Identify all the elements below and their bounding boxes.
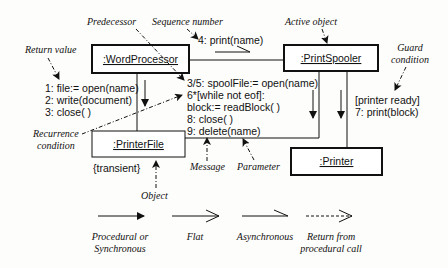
annotation-recurrence-2: condition xyxy=(37,140,75,151)
message-text: 2: write(document) xyxy=(45,94,132,106)
annotation-recurrence: Recurrence xyxy=(32,128,79,139)
legend: Procedural or Synchronous Flat Asynchron… xyxy=(91,210,362,254)
message-text: 3: close( ) xyxy=(45,106,91,118)
message-text: 9: delete(name) xyxy=(187,125,261,137)
message-print-name: 4: print(name) xyxy=(198,34,263,46)
object-label: :Printer xyxy=(320,155,354,167)
message-text: block:= readBlock( ) xyxy=(187,101,280,113)
object-label: :PrintSpooler xyxy=(301,52,362,64)
annotation-guard-condition: Guard xyxy=(397,42,424,53)
legend-label: Flat xyxy=(186,231,204,242)
object-print-spooler[interactable]: :PrintSpooler xyxy=(284,45,378,71)
object-printer-file[interactable]: :PrinterFile xyxy=(92,131,185,157)
message-text: 3/5: spoolFile:= open(name) xyxy=(187,77,318,89)
messages-spooler-file: 3/5: spoolFile:= open(name) 6*[while not… xyxy=(187,77,318,137)
message-text: 7: print(block) xyxy=(355,106,419,118)
legend-label: procedural call xyxy=(299,243,362,254)
annotation-return-value: Return value xyxy=(24,44,77,55)
legend-procedural: Procedural or Synchronous xyxy=(91,216,149,254)
legend-async xyxy=(242,210,288,216)
legend-flat xyxy=(172,210,219,222)
collaboration-diagram: :WordProcessor :PrintSpooler :PrinterFil… xyxy=(0,0,448,268)
object-label: :PrinterFile xyxy=(113,138,164,150)
async-arrow-head xyxy=(237,46,250,52)
return-arrow-head xyxy=(339,210,352,222)
object-label: :WordProcessor xyxy=(103,53,179,65)
pointer-return-value xyxy=(48,58,59,79)
pointer-sequence-number xyxy=(187,29,198,39)
legend-label: Procedural or xyxy=(91,231,149,242)
messages-wp-file: 1: file:= open(name) 2: write(document) … xyxy=(45,82,139,118)
annotation-parameter: Parameter xyxy=(236,161,280,172)
annotation-message: Message xyxy=(189,161,226,172)
annotation-predecessor: Predecessor xyxy=(86,16,136,27)
annotation-object: Object xyxy=(141,190,168,201)
legend-label: Return from xyxy=(306,231,355,242)
annotation-active-object: Active object xyxy=(284,16,337,27)
message-text: 1: file:= open(name) xyxy=(45,82,139,94)
legend-label: Synchronous xyxy=(94,243,145,254)
legend-label: Asynchronous xyxy=(236,231,293,242)
message-text: [printer ready] xyxy=(355,94,420,106)
legend-return xyxy=(306,210,352,222)
transient-constraint: {transient} xyxy=(93,162,141,174)
object-word-processor[interactable]: :WordProcessor xyxy=(92,45,189,73)
messages-spooler-printer: [printer ready] 7: print(block) xyxy=(355,94,420,118)
pointer-parameter xyxy=(243,139,254,160)
annotation-guard-condition-2: condition xyxy=(391,54,429,65)
message-text: 8: close( ) xyxy=(187,113,233,125)
async-arrow-head xyxy=(274,210,288,216)
annotation-sequence-number: Sequence number xyxy=(152,16,223,27)
object-printer[interactable]: :Printer xyxy=(291,148,382,175)
message-text: 6*[while not eof]: xyxy=(187,89,265,101)
pointer-guard xyxy=(395,67,406,90)
pointer-active-object xyxy=(322,29,327,43)
